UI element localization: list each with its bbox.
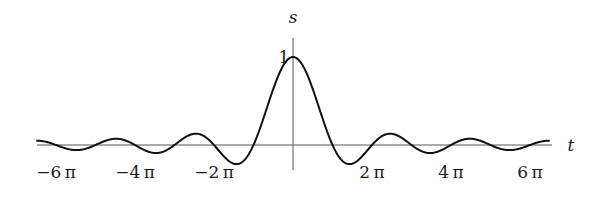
y-axis-label: s bbox=[289, 7, 298, 27]
x-tick-label: −2 π bbox=[194, 162, 234, 182]
x-tick-labels: −6 π−4 π−2 π2 π4 π6 π bbox=[36, 162, 543, 182]
y-tick-label-1: 1 bbox=[279, 47, 290, 67]
x-tick-label: 6 π bbox=[517, 162, 542, 182]
x-tick-label: −4 π bbox=[115, 162, 155, 182]
x-tick-label: 2 π bbox=[359, 162, 384, 182]
x-tick-label: −6 π bbox=[36, 162, 76, 182]
x-tick-label: 4 π bbox=[438, 162, 463, 182]
sinc-chart: s t 1 −6 π−4 π−2 π2 π4 π6 π bbox=[0, 0, 603, 204]
x-axis-label: t bbox=[568, 135, 575, 155]
